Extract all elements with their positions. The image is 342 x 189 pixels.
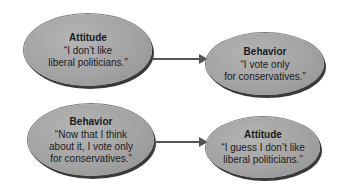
- node-title: Behavior: [244, 46, 287, 58]
- behavior-node-bottom: Behavior “Now that I think about it, I v…: [28, 104, 154, 176]
- node-quote-line: for conservatives.”: [50, 153, 132, 165]
- node-quote-line: about it, I vote only: [49, 141, 133, 153]
- behavior-node-top: Behavior “I vote only for conservatives.…: [206, 33, 324, 95]
- node-quote-line: “I vote only: [241, 59, 290, 71]
- node-quote-line: “I guess I don’t like: [221, 142, 304, 154]
- node-title: Attitude: [244, 129, 282, 141]
- node-quote-line: for conservatives.”: [224, 71, 306, 83]
- node-quote-line: liberal politicians.”: [48, 57, 127, 69]
- arrow-bottom: [154, 141, 206, 143]
- node-title: Behavior: [70, 116, 113, 128]
- node-quote-line: “I don’t like: [64, 45, 112, 57]
- attitude-node-bottom: Attitude “I guess I don’t like liberal p…: [206, 117, 320, 178]
- arrow-top: [152, 58, 206, 60]
- node-title: Attitude: [69, 32, 107, 44]
- attitude-node-top: Attitude “I don’t like liberal politicia…: [24, 14, 152, 86]
- node-quote-line: liberal politicians.”: [223, 154, 302, 166]
- node-quote-line: “Now that I think: [55, 129, 127, 141]
